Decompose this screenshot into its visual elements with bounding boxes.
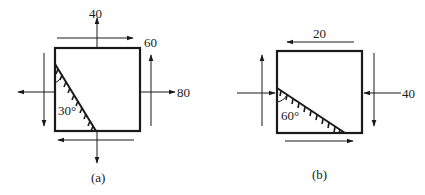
label-top-shear-b: 20 <box>313 26 326 41</box>
label-right-normal-a: 80 <box>177 85 190 100</box>
hatching-a <box>56 69 93 131</box>
angle-label-a: 30° <box>58 103 76 118</box>
figure-b: 20 40 60° (b) <box>237 26 415 182</box>
stress-element-diagram: 40 60 80 <box>0 0 425 195</box>
angle-label-b: 60° <box>281 108 299 123</box>
label-top-shear-a: 60 <box>144 35 157 50</box>
label-top-normal-a: 40 <box>89 6 102 21</box>
figure-a: 40 60 80 <box>18 6 190 185</box>
stress-element-a <box>55 48 140 131</box>
label-right-normal-b: 40 <box>402 86 415 101</box>
caption-b: (b) <box>312 167 327 182</box>
caption-a: (a) <box>91 170 105 185</box>
